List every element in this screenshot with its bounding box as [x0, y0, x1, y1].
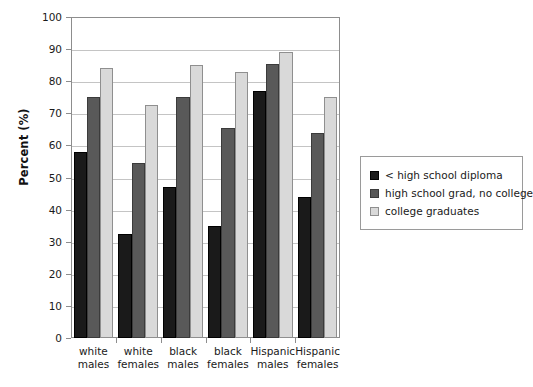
x-tick-mark: [116, 338, 117, 343]
x-cat-label-line: females: [295, 358, 340, 371]
x-cat-label-line: white: [71, 345, 116, 358]
bar: [100, 68, 113, 338]
bar: [87, 97, 100, 338]
y-tick-label: 60: [18, 140, 62, 151]
bar: [298, 197, 311, 338]
x-cat-label-line: females: [206, 358, 251, 371]
bar: [118, 234, 131, 338]
x-cat-label: whitefemales: [116, 345, 161, 371]
x-tick-mark: [161, 338, 162, 343]
x-tick-mark: [206, 338, 207, 343]
bar: [208, 226, 221, 338]
x-cat-label-line: Hispanic: [295, 345, 340, 358]
bar: [253, 91, 266, 338]
bar: [190, 65, 203, 338]
x-cat-label-line: Hispanic: [250, 345, 295, 358]
y-tick-mark: [66, 338, 71, 339]
chart-legend: < high school diplomahigh school grad, n…: [360, 156, 523, 230]
x-cat-label-line: white: [116, 345, 161, 358]
x-cat-label: blackmales: [161, 345, 206, 371]
bar: [145, 105, 158, 338]
x-cat-label-line: males: [71, 358, 116, 371]
bar: [74, 152, 87, 338]
black-swatch-icon: [370, 171, 379, 180]
x-cat-label: Hispanicmales: [250, 345, 295, 371]
y-tick-label: 70: [18, 108, 62, 119]
x-cat-label: whitemales: [71, 345, 116, 371]
legend-item-label: high school grad, no college: [385, 187, 533, 199]
x-cat-label: blackfemales: [206, 345, 251, 371]
bar: [324, 97, 337, 338]
bar: [221, 128, 234, 338]
x-cat-label-line: males: [250, 358, 295, 371]
x-tick-mark: [295, 338, 296, 343]
bar: [279, 52, 292, 338]
legend-item: < high school diploma: [370, 166, 514, 184]
bar: [176, 97, 189, 338]
y-tick-label: 0: [18, 333, 62, 344]
bar: [235, 72, 248, 338]
bar: [163, 187, 176, 338]
x-cat-label-line: black: [161, 345, 206, 358]
bar: [311, 133, 324, 338]
x-cat-label-line: males: [161, 358, 206, 371]
bars-layer: [71, 17, 340, 338]
y-tick-label: 50: [18, 173, 62, 184]
x-cat-label: Hispanicfemales: [295, 345, 340, 371]
legend-item-label: college graduates: [385, 205, 479, 217]
legend-item-label: < high school diploma: [385, 169, 503, 181]
y-tick-label: 30: [18, 237, 62, 248]
bar: [266, 64, 279, 338]
y-tick-label: 100: [18, 12, 62, 23]
light-gray-swatch-icon: [370, 207, 379, 216]
legend-item: college graduates: [370, 202, 514, 220]
y-tick-label: 20: [18, 269, 62, 280]
x-tick-mark: [250, 338, 251, 343]
legend-item: high school grad, no college: [370, 184, 514, 202]
y-tick-label: 40: [18, 205, 62, 216]
dark-gray-swatch-icon: [370, 189, 379, 198]
y-tick-label: 90: [18, 44, 62, 55]
bar: [132, 163, 145, 338]
x-cat-label-line: females: [116, 358, 161, 371]
x-cat-label-line: black: [206, 345, 251, 358]
y-tick-label: 10: [18, 301, 62, 312]
y-tick-label: 80: [18, 76, 62, 87]
